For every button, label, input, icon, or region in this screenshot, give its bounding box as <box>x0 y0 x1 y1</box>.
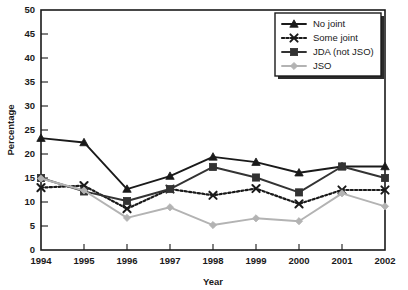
y-tick-label: 20 <box>24 148 35 159</box>
x-tick-label: 1994 <box>30 255 52 266</box>
x-tick-label: 1998 <box>202 255 223 266</box>
marker-square <box>338 163 345 170</box>
legend-label: JDA (not JSO) <box>313 46 374 57</box>
marker-diamond <box>209 221 216 228</box>
marker-diamond <box>166 204 173 211</box>
marker-square <box>290 48 297 55</box>
x-axis-title: Year <box>203 276 223 287</box>
y-tick-label: 40 <box>24 52 35 63</box>
y-tick-label: 25 <box>24 124 35 135</box>
legend-label: JSO <box>313 60 331 71</box>
x-tick-label: 2000 <box>288 255 309 266</box>
legend-label: Some joint <box>313 32 358 43</box>
x-tick-label: 2002 <box>374 255 395 266</box>
y-tick-label: 35 <box>24 76 35 87</box>
y-tick-label: 50 <box>24 4 35 15</box>
y-tick-label: 45 <box>24 28 35 39</box>
x-tick-label: 2001 <box>331 255 353 266</box>
x-axis-ticks: 199419951996199719981999200020012002 <box>30 244 395 266</box>
x-tick-label: 1995 <box>73 255 95 266</box>
y-tick-label: 10 <box>24 196 35 207</box>
legend-item-jda-not-jso[interactable]: JDA (not JSO) <box>282 46 374 57</box>
y-axis-title: Percentage <box>5 104 16 155</box>
y-tick-label: 0 <box>30 244 35 255</box>
legend-label: No joint <box>313 18 346 29</box>
y-tick-label: 30 <box>24 100 35 111</box>
marker-square <box>209 163 216 170</box>
series-lines <box>37 134 389 229</box>
series-jso <box>37 175 388 229</box>
x-tick-label: 1999 <box>245 255 266 266</box>
line-chart: 05101520253035404550 1994199519961997199… <box>0 0 408 290</box>
x-tick-label: 1997 <box>159 255 180 266</box>
marker-square <box>166 185 173 192</box>
series-path <box>41 186 385 209</box>
y-axis-ticks: 05101520253035404550 <box>24 4 48 255</box>
y-tick-label: 5 <box>30 220 36 231</box>
y-tick-label: 15 <box>24 172 35 183</box>
marker-diamond <box>252 215 259 222</box>
series-path <box>41 178 385 225</box>
marker-square <box>381 174 388 181</box>
x-tick-label: 1996 <box>116 255 137 266</box>
chart-legend: No jointSome jointJDA (not JSO)JSO <box>275 13 384 79</box>
marker-diamond <box>381 203 388 210</box>
marker-square <box>123 197 130 204</box>
marker-square <box>295 189 302 196</box>
chart-container: 05101520253035404550 1994199519961997199… <box>0 0 408 290</box>
marker-square <box>252 174 259 181</box>
